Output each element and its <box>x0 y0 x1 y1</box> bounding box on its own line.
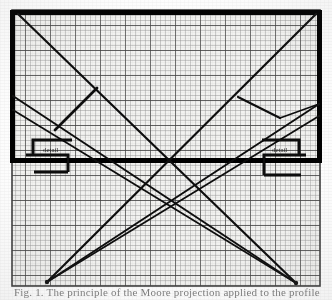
left-focus-marker <box>45 280 49 284</box>
right-bracket-label: detail <box>272 146 288 154</box>
left-bracket-label: detail <box>43 146 59 154</box>
figure-caption: Fig. 1. The principle of the Moore proje… <box>14 286 320 298</box>
left-bracket-label-text: detail <box>43 146 59 154</box>
figure-page: detail detail Fig. 1. The principle of t… <box>0 0 332 300</box>
scanned-figure-svg: detail detail <box>0 0 332 300</box>
right-bracket-label-text: detail <box>272 146 288 154</box>
figure-caption-strip: Fig. 1. The principle of the Moore proje… <box>0 286 332 300</box>
figure-stage: detail detail Fig. 1. The principle of t… <box>0 0 332 300</box>
right-focus-marker <box>294 281 298 285</box>
